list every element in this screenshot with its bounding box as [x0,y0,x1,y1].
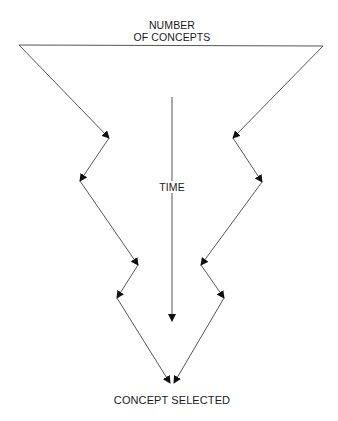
left-segment-5-arrow [117,298,170,383]
left-segment-3-arrow [80,181,138,265]
funnel-graphic [0,0,338,421]
time-label: TIME [152,181,192,193]
concept-selected-label: CONCEPT SELECTED [92,394,252,406]
right-segment-2-arrow [233,138,262,182]
left-segment-2-arrow [80,138,109,181]
title-line-2: OF CONCEPTS [112,31,232,43]
left-convergence-path [19,45,170,383]
concept-funnel-diagram: NUMBER OF CONCEPTS TIME CONCEPT SELECTED [0,0,338,421]
right-segment-1-arrow [233,46,323,138]
top-boundary-line [19,45,323,46]
left-segment-1-arrow [19,45,109,138]
right-segment-3-arrow [201,182,262,265]
number-of-concepts-label: NUMBER OF CONCEPTS [112,19,232,43]
right-convergence-path [174,46,323,383]
left-segment-4-arrow [117,265,138,298]
right-segment-4-arrow [201,265,224,298]
right-segment-5-arrow [174,298,224,383]
title-line-1: NUMBER [112,19,232,31]
